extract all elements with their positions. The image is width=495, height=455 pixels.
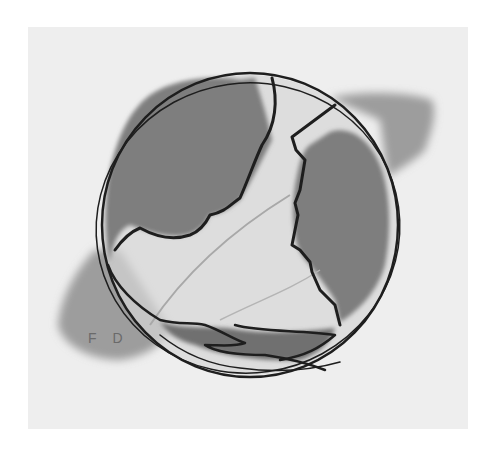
artist-signature: F D xyxy=(88,330,129,346)
globe-illustration xyxy=(0,0,495,455)
